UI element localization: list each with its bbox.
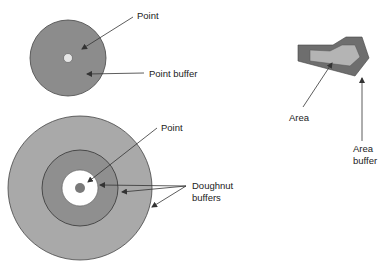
area-leader-line (303, 63, 332, 107)
point-small (64, 54, 73, 63)
area-buffer-label-line1: Area (353, 143, 374, 154)
area-buffer-group: Area Area buffer (289, 37, 377, 166)
point-buffer-label: Point buffer (149, 68, 197, 79)
area-label: Area (289, 112, 310, 123)
doughnut-label-line1: Doughnut (192, 180, 234, 191)
doughnut-point-label: Point (161, 122, 183, 133)
center-point (75, 183, 85, 193)
buffer-diagram: Point Point buffer Point Doughnut buffer… (0, 0, 390, 266)
point-label-top: Point (137, 10, 159, 21)
doughnut-buffer-group: Point Doughnut buffers (8, 116, 234, 260)
point-buffer-group: Point Point buffer (30, 10, 197, 96)
doughnut-label-line2: buffers (192, 192, 221, 203)
area-buffer-label-line2: buffer (353, 155, 377, 166)
doughnut-leader-3 (152, 186, 186, 207)
diagram-canvas: Point Point buffer Point Doughnut buffer… (0, 0, 390, 266)
